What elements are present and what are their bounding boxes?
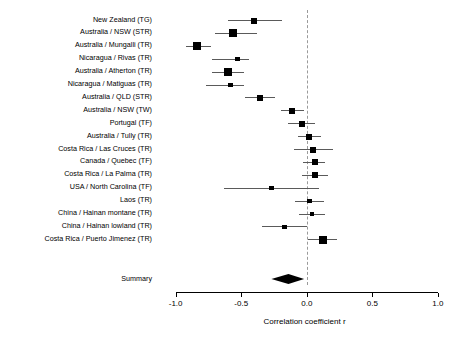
x-axis-title: Correlation coefficient r: [152, 317, 457, 326]
study-label-column: New Zealand (TG)Australia / NSW (STR)Aus…: [0, 0, 152, 337]
effect-size-marker: [289, 108, 295, 114]
effect-size-marker: [306, 134, 312, 140]
x-axis-tick-label: -1.0: [156, 299, 196, 308]
effect-size-marker: [319, 236, 327, 244]
confidence-interval-line: [212, 59, 249, 60]
study-label: Australia / Tully (TR): [87, 132, 152, 140]
study-label: Costa Rica / Puerto Jimenez (TR): [45, 235, 152, 243]
effect-size-marker: [229, 29, 237, 37]
study-label: Nicaragua / Matiguas (TR): [68, 80, 152, 88]
effect-size-marker: [307, 199, 312, 204]
effect-size-marker: [310, 147, 316, 153]
reference-line: [307, 10, 308, 285]
confidence-interval-line: [206, 85, 244, 86]
effect-size-marker: [312, 172, 318, 178]
study-label: New Zealand (TG): [93, 16, 152, 24]
study-label: Australia / NSW (STR): [80, 28, 152, 36]
x-axis-tick-label: 0.0: [287, 299, 327, 308]
x-axis-tick-label: 1.0: [418, 299, 457, 308]
effect-size-marker: [251, 18, 257, 24]
x-axis-tick: [372, 293, 373, 297]
effect-size-marker: [312, 159, 318, 165]
study-label: Costa Rica / Las Cruces (TR): [58, 145, 152, 153]
effect-size-marker: [282, 225, 287, 230]
effect-size-marker: [228, 83, 233, 88]
study-label: Laos (TR): [120, 196, 152, 204]
x-axis-tick-label: 0.5: [352, 299, 392, 308]
effect-size-marker: [257, 95, 263, 101]
x-axis-tick: [241, 293, 242, 297]
effect-size-marker: [299, 121, 305, 127]
effect-size-marker: [224, 68, 232, 76]
study-label: USA / North Carolina (TF): [70, 183, 152, 191]
x-axis-tick: [438, 293, 439, 297]
study-label: Australia / NSW (TW): [83, 106, 152, 114]
effect-size-marker: [310, 212, 315, 217]
plot-area: -1.0-0.50.00.51.0Correlation coefficient…: [152, 0, 457, 337]
effect-size-marker: [193, 42, 201, 50]
summary-label: Summary: [121, 275, 152, 283]
summary-diamond: [152, 269, 457, 289]
effect-size-marker: [269, 186, 274, 191]
study-label: China / Hainan montane (TR): [58, 209, 152, 217]
study-label: China / Hainan lowland (TR): [62, 222, 152, 230]
study-label: Portugal (TF): [110, 119, 152, 127]
x-axis-tick: [307, 293, 308, 297]
study-label: Australia / Atherton (TR): [75, 67, 152, 75]
study-label: Costa Rica / La Palma (TR): [64, 170, 152, 178]
study-label: Canada / Quebec (TF): [80, 157, 152, 165]
study-label: Nicaragua / Rivas (TR): [79, 54, 152, 62]
study-label: Australia / Mungalli (TR): [75, 41, 152, 49]
study-label: Australia / QLD (STR): [82, 93, 152, 101]
effect-size-marker: [235, 57, 240, 62]
x-axis-tick: [176, 293, 177, 297]
forest-plot: New Zealand (TG)Australia / NSW (STR)Aus…: [0, 0, 457, 337]
x-axis-tick-label: -0.5: [221, 299, 261, 308]
